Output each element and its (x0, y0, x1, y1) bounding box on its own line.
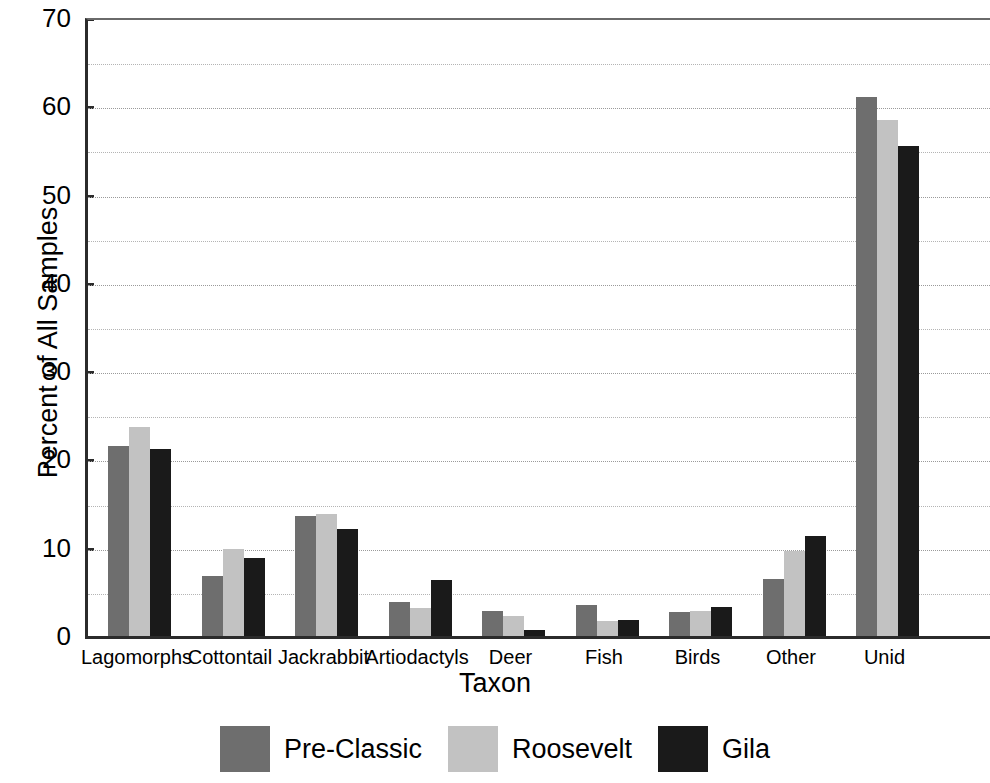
y-axis-tick-label: 40 (0, 270, 71, 296)
bar (316, 514, 337, 636)
bar (389, 602, 410, 636)
bar (503, 616, 524, 636)
legend-item: Pre-Classic (220, 726, 422, 772)
y-axis-tick-label: 60 (0, 93, 71, 119)
bar (576, 605, 597, 636)
legend-item: Gila (658, 726, 770, 772)
gridline (88, 64, 990, 65)
legend-swatch (658, 726, 708, 772)
plot-inner (88, 20, 990, 636)
legend-label: Gila (722, 734, 770, 764)
bar (431, 580, 452, 637)
gridline (88, 285, 990, 286)
bar (877, 120, 898, 636)
y-axis-tick-label: 20 (0, 446, 71, 472)
y-axis-tick-label: 50 (0, 182, 71, 208)
bar (898, 146, 919, 636)
bar (129, 427, 150, 636)
y-axis-tick-label: 70 (0, 5, 71, 31)
legend-label: Pre-Classic (284, 734, 422, 764)
y-axis-tick-label: 30 (0, 358, 71, 384)
bar (763, 579, 784, 636)
x-axis-line (85, 636, 990, 639)
legend-item: Roosevelt (448, 726, 632, 772)
legend-label: Roosevelt (512, 734, 632, 764)
bar (150, 449, 171, 636)
gridline (88, 108, 990, 109)
bar (784, 551, 805, 636)
gridline (88, 197, 990, 198)
bar (618, 620, 639, 636)
gridline (88, 329, 990, 330)
bar (223, 549, 244, 636)
x-axis-tick-label: Unid (795, 645, 975, 669)
gridline (88, 417, 990, 418)
bar (690, 611, 711, 636)
bar-chart-figure: Percent of All Samples 010203040506070 L… (0, 0, 990, 783)
bar (711, 607, 732, 636)
bar (597, 621, 618, 636)
bar (108, 446, 129, 636)
bar (410, 608, 431, 636)
chart-legend: Pre-ClassicRooseveltGila (0, 726, 990, 772)
bar (805, 536, 826, 636)
legend-swatch (220, 726, 270, 772)
gridline (88, 152, 990, 153)
bar (202, 576, 223, 636)
bar (295, 516, 316, 636)
bar (244, 558, 265, 636)
bar (482, 611, 503, 636)
bar (669, 612, 690, 636)
gridline (88, 373, 990, 374)
y-axis-tick-label: 10 (0, 535, 71, 561)
x-axis-title: Taxon (0, 668, 990, 699)
plot-area (85, 18, 990, 636)
bar (337, 529, 358, 636)
gridline (88, 241, 990, 242)
bar (856, 97, 877, 636)
gridline (88, 506, 990, 507)
gridline (88, 461, 990, 462)
legend-swatch (448, 726, 498, 772)
